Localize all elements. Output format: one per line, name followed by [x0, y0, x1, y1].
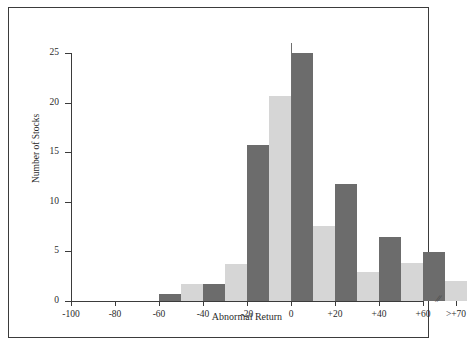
figure-frame: // Number of Stocks Abnormal Return 0510…	[8, 7, 429, 338]
x-tick	[247, 301, 248, 306]
bar-group	[71, 40, 423, 301]
plot-area: //	[71, 40, 423, 301]
bar	[335, 184, 357, 301]
x-tick-label: >+70	[426, 310, 471, 320]
bar	[269, 96, 291, 301]
bar	[203, 284, 225, 301]
y-tick-label: 20	[19, 98, 59, 108]
bar	[159, 294, 181, 301]
x-tick	[115, 301, 116, 306]
x-tick	[423, 301, 424, 306]
y-tick-label: 10	[19, 197, 59, 207]
x-tick	[203, 301, 204, 306]
bar	[225, 264, 247, 301]
y-tick-label: 25	[19, 48, 59, 58]
x-tick	[335, 301, 336, 306]
zero-reference-line	[291, 43, 292, 301]
bar	[401, 263, 423, 301]
bar	[445, 281, 467, 301]
x-tick	[159, 301, 160, 306]
x-tick	[71, 301, 72, 306]
bar	[379, 237, 401, 301]
x-tick	[291, 301, 292, 306]
bar	[247, 145, 269, 301]
x-tick	[379, 301, 380, 306]
bar	[181, 284, 203, 301]
y-tick-label: 5	[19, 246, 59, 256]
y-tick-label: 15	[19, 147, 59, 157]
bar	[291, 53, 313, 301]
y-tick-label: 0	[19, 296, 59, 306]
x-tick	[456, 301, 457, 306]
bar	[357, 272, 379, 301]
bar	[313, 226, 335, 301]
